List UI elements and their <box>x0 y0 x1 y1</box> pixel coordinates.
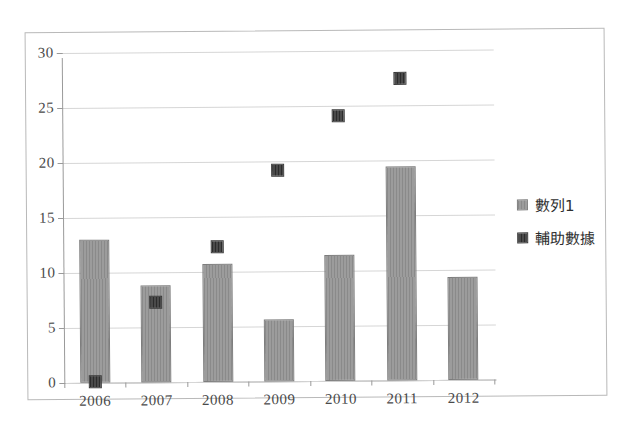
y-axis-tick <box>59 328 65 329</box>
legend-label-series1: 數列1 <box>535 194 575 215</box>
bar <box>385 166 417 381</box>
x-axis-tick <box>494 380 495 385</box>
legend-label-auxiliary: 輔助數據 <box>535 227 595 248</box>
y-axis-tick-label: 5 <box>48 320 56 337</box>
aux-swatch-icon <box>517 232 528 243</box>
legend-item-series1[interactable]: 數列1 <box>517 193 632 215</box>
scatter-marker <box>88 375 101 388</box>
gridline <box>63 270 495 274</box>
scatter-marker <box>149 295 162 308</box>
bar <box>325 254 356 381</box>
series1-swatch-icon <box>517 199 528 210</box>
x-axis-tick-label: 2012 <box>448 390 480 407</box>
y-axis-tick <box>57 53 63 54</box>
scatter-marker <box>210 240 223 253</box>
x-axis-tick <box>126 382 127 387</box>
gridline <box>62 105 494 109</box>
x-axis-tick-label: 2007 <box>141 392 173 409</box>
y-axis-tick <box>57 108 63 109</box>
y-axis-tick <box>58 218 64 219</box>
y-axis-tick-label: 30 <box>38 45 54 62</box>
y-axis: 051015202530 <box>62 50 492 53</box>
gridline <box>62 50 494 54</box>
x-axis-tick <box>371 381 372 386</box>
x-axis-tick <box>249 382 250 387</box>
y-axis-tick-label: 0 <box>48 375 56 392</box>
x-axis-tick <box>64 383 65 388</box>
bar <box>448 276 479 380</box>
scatter-marker <box>332 109 345 122</box>
x-axis-tick-label: 2009 <box>263 391 295 408</box>
x-axis-tick <box>433 380 434 385</box>
y-axis-tick <box>58 163 64 164</box>
x-axis-tick-label: 2008 <box>202 392 234 409</box>
x-axis-tick-label: 2006 <box>79 393 111 410</box>
x-axis-tick <box>187 382 188 387</box>
y-axis-tick-label: 10 <box>39 265 55 282</box>
x-axis-tick-label: 2011 <box>387 390 419 407</box>
bar <box>79 240 110 383</box>
y-axis-tick-label: 25 <box>38 100 54 117</box>
gridline <box>63 215 495 219</box>
scatter-marker <box>393 71 406 84</box>
chart-legend: 數列1 輔助數據 <box>517 193 632 260</box>
legend-item-auxiliary[interactable]: 輔助數據 <box>517 226 632 248</box>
y-axis-tick-label: 20 <box>39 155 55 172</box>
y-axis-line <box>62 58 66 383</box>
scatter-marker <box>271 164 284 177</box>
x-axis-tick <box>310 381 311 386</box>
x-axis-tick-label: 2010 <box>325 391 357 408</box>
chart-frame: 051015202530 200620072008200920102011201… <box>25 28 608 401</box>
bar <box>264 320 294 382</box>
plot-area: 051015202530 200620072008200920102011201… <box>62 50 495 383</box>
y-axis-tick <box>58 273 64 274</box>
bar <box>202 264 233 382</box>
y-axis-tick-label: 15 <box>39 210 55 227</box>
